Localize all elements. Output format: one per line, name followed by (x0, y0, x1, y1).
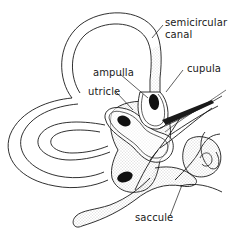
label-semicircular-canal-line1: semicircular (165, 17, 227, 28)
inner-ear-diagram (0, 0, 229, 240)
label-cupula: cupula (187, 63, 221, 74)
label-semicircular-canal-line2: canal (165, 29, 192, 40)
stipple-superior (150, 45, 162, 92)
label-utricle: utricle (88, 86, 120, 97)
label-ampulla: ampulla (93, 67, 134, 78)
semicircular-canal-lateral (8, 98, 110, 188)
endolymphatic-sac (183, 137, 221, 177)
label-saccule: saccule (135, 212, 173, 223)
